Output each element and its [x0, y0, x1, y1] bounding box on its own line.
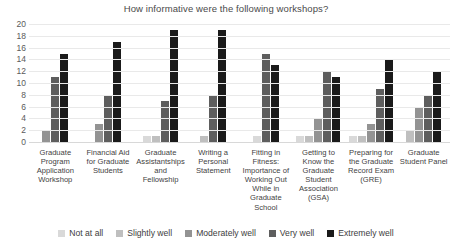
y-axis-tick-label: 8: [21, 91, 26, 100]
legend-label: Very well: [280, 228, 314, 238]
legend-swatch-icon: [58, 230, 65, 237]
y-axis-tick-label: 4: [21, 114, 26, 123]
bar: [415, 107, 423, 142]
y-axis-tick-label: 2: [21, 126, 26, 135]
legend-item[interactable]: Moderately well: [185, 228, 256, 238]
bar: [332, 77, 340, 142]
x-axis-category-label: Getting to Know the Graduate Student Ass…: [292, 148, 345, 222]
legend-item[interactable]: Extremely well: [327, 228, 393, 238]
x-axis-category-label: Financial Aid for Graduate Students: [82, 148, 135, 222]
y-axis-tick-label: 6: [21, 102, 26, 111]
y-axis-tick-label: 20: [17, 20, 26, 29]
bar: [95, 124, 103, 142]
x-axis-category-label: Writing a Personal Statement: [187, 148, 240, 222]
x-axis-category-label: Fitting in Fitness: Importance of Workin…: [240, 148, 293, 222]
bar: [376, 89, 384, 142]
y-axis-tick-label: 12: [17, 67, 26, 76]
legend-label: Moderately well: [196, 228, 256, 238]
bar: [406, 130, 414, 142]
x-axis-category-label: Preparing for the Graduate Record Exam (…: [345, 148, 398, 222]
gridline: [29, 118, 450, 119]
gridline: [29, 59, 450, 60]
legend-label: Not at all: [69, 228, 103, 238]
gridline: [29, 83, 450, 84]
x-axis-category-label: Graduate Program Application Workshop: [29, 148, 82, 222]
x-axis-baseline: [29, 142, 450, 143]
y-axis-tick-label: 14: [17, 55, 26, 64]
legend-label: Extremely well: [338, 228, 393, 238]
chart-title: How informative were the following works…: [0, 3, 452, 14]
legend-item[interactable]: Not at all: [58, 228, 103, 238]
chart-legend: Not at allSlightly wellModerately wellVe…: [0, 228, 452, 238]
legend-swatch-icon: [269, 230, 276, 237]
bar: [262, 54, 270, 143]
legend-item[interactable]: Slightly well: [116, 228, 172, 238]
bar: [367, 124, 375, 142]
legend-item[interactable]: Very well: [269, 228, 314, 238]
bar: [60, 54, 68, 143]
x-axis-category-labels: Graduate Program Application WorkshopFin…: [29, 148, 450, 222]
y-axis-tick-label: 0: [21, 138, 26, 147]
bar-chart: How informative were the following works…: [0, 0, 452, 251]
gridline: [29, 107, 450, 108]
legend-swatch-icon: [116, 230, 123, 237]
plot-area: [29, 24, 450, 142]
bar: [42, 130, 50, 142]
x-axis-category-label: Graduate Assistantships and Fellowship: [134, 148, 187, 222]
y-axis-tick-label: 10: [17, 79, 26, 88]
plot-wrapper: 20181614121086420: [0, 24, 452, 148]
legend-label: Slightly well: [127, 228, 172, 238]
gridline: [29, 48, 450, 49]
gridline: [29, 130, 450, 131]
y-axis-tick-label: 18: [17, 32, 26, 41]
legend-swatch-icon: [185, 230, 192, 237]
y-axis-tick-label: 16: [17, 43, 26, 52]
x-axis-category-label: Graduate Student Panel: [397, 148, 450, 222]
legend-swatch-icon: [327, 230, 334, 237]
bar: [51, 77, 59, 142]
gridline: [29, 36, 450, 37]
gridline: [29, 24, 450, 25]
gridline: [29, 95, 450, 96]
bar: [113, 42, 121, 142]
y-axis: 20181614121086420: [0, 24, 26, 148]
gridline: [29, 71, 450, 72]
